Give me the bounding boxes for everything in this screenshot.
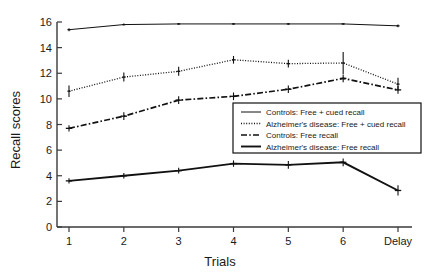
y-axis-title: Recall scores	[8, 90, 23, 169]
x-tick-label: 4	[230, 235, 236, 247]
recall-scores-line-chart: 0246810121416 123456Delay Controls: Free…	[0, 0, 432, 280]
legend-label: Controls: Free + cued recall	[266, 108, 365, 117]
y-tick-label: 8	[46, 119, 52, 131]
x-tick-label: 2	[121, 235, 127, 247]
y-tick-label: 16	[40, 16, 52, 28]
y-tick-label: 12	[40, 67, 52, 79]
legend-label: Controls: Free recall	[266, 131, 338, 140]
x-tick-label: Delay	[384, 235, 413, 247]
y-tick-label: 4	[46, 170, 52, 182]
x-tick-label: 3	[176, 235, 182, 247]
legend-label: Alzheimer's disease: Free + cued recall	[266, 120, 406, 129]
y-tick-label: 14	[40, 42, 52, 54]
y-tick-label: 10	[40, 93, 52, 105]
x-tick-label: 6	[340, 235, 346, 247]
y-tick-label: 6	[46, 144, 52, 156]
x-axis-title: Trials	[204, 254, 236, 269]
y-tick-label: 2	[46, 195, 52, 207]
x-tick-label: 5	[285, 235, 291, 247]
y-tick-label: 0	[46, 221, 52, 233]
x-tick-label: 1	[66, 235, 72, 247]
legend-label: Alzheimer's disease: Free recall	[266, 143, 379, 152]
chart-legend: Controls: Free + cued recallAlzheimer's …	[233, 103, 421, 153]
legend-item-1[interactable]: Alzheimer's disease: Free + cued recall	[241, 120, 406, 129]
